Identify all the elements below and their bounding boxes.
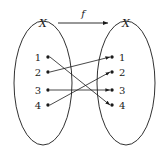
domain-dot-1 [46, 55, 49, 58]
domain-label-3: 3 [35, 85, 41, 96]
domain-dot-2 [46, 70, 49, 73]
codomain-label-4: 4 [119, 100, 125, 111]
domain-label-2: 2 [35, 67, 41, 78]
codomain-set-label: X [121, 17, 131, 30]
codomain-dot-2 [110, 70, 113, 73]
domain-dot-4 [46, 103, 49, 106]
domain-oval [14, 21, 72, 145]
codomain-dot-4 [110, 103, 113, 106]
codomain-dot-1 [110, 55, 113, 58]
domain-dot-3 [46, 88, 49, 91]
domain-label-4: 4 [35, 100, 41, 111]
codomain-label-2: 2 [119, 67, 125, 78]
diagram-canvas: 1 2 3 4 1 2 3 4 X X f [0, 0, 167, 152]
domain-set-label: X [38, 17, 48, 30]
function-diagram: 1 2 3 4 1 2 3 4 X X f [0, 0, 167, 152]
domain-label-1: 1 [35, 52, 41, 63]
codomain-label-3: 3 [119, 85, 125, 96]
codomain-dot-3 [110, 88, 113, 91]
codomain-label-1: 1 [119, 52, 125, 63]
mapping-line-4-to-2 [50, 72, 110, 105]
map-name-label: f [80, 8, 87, 19]
codomain-oval [97, 21, 155, 145]
